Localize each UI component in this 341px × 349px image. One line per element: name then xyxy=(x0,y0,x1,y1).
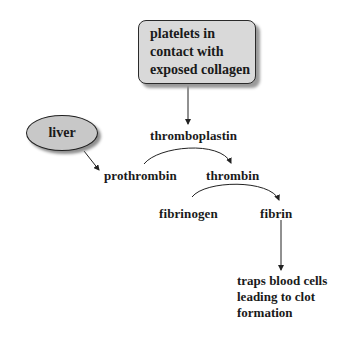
thrombin-label: thrombin xyxy=(206,167,259,184)
outcome-line-2: leading to clot xyxy=(237,289,327,305)
box-line-1: platelets in xyxy=(150,25,255,43)
prothrombin-label: prothrombin xyxy=(104,167,177,184)
fibrinogen-label: fibrinogen xyxy=(159,205,218,222)
arrow-prothrombin-to-thrombin xyxy=(144,148,231,164)
outcome-line-3: formation xyxy=(237,305,327,321)
arrow-liver-to-prothrombin xyxy=(84,151,99,170)
outcome-line-1: traps blood cells xyxy=(237,273,327,289)
box-line-2: contact with xyxy=(150,43,255,61)
box-line-3: exposed collagen xyxy=(150,61,255,79)
platelets-collagen-box: platelets in contact with exposed collag… xyxy=(138,20,256,84)
liver-oval: liver xyxy=(26,115,98,151)
clot-formation-outcome: traps blood cells leading to clot format… xyxy=(237,273,327,321)
thromboplastin-label: thromboplastin xyxy=(150,127,237,144)
arrow-fibrinogen-to-fibrin xyxy=(192,184,279,200)
liver-label: liver xyxy=(48,125,75,141)
fibrin-label: fibrin xyxy=(260,205,292,222)
